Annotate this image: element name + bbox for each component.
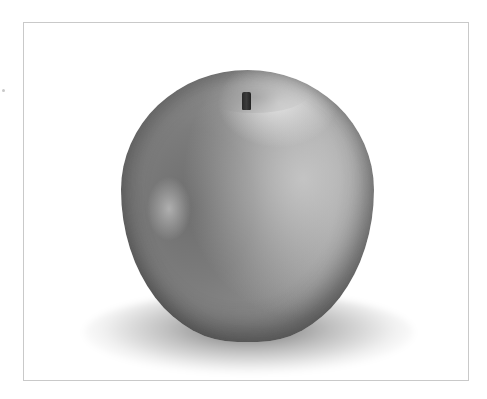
stray-mark: [2, 89, 5, 92]
apple-stem: [242, 92, 251, 110]
photo-frame: [23, 22, 469, 381]
apple-stem-cavity: [199, 73, 309, 113]
